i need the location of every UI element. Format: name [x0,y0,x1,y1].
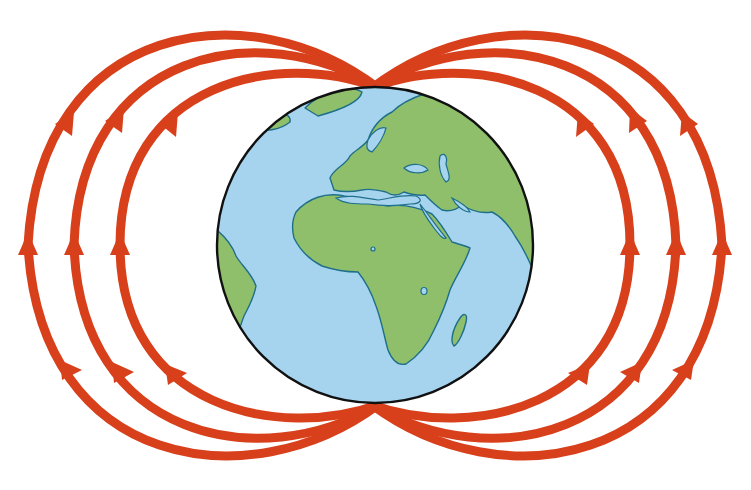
magnetic-field-diagram [0,0,751,490]
arrow-up-icon [110,232,130,255]
lake-chad [371,247,375,251]
earth-globe [217,87,533,403]
arrow-up-icon [620,232,640,255]
lake-victoria [421,288,427,295]
arrow-up-icon [64,232,84,255]
arrow-up-icon [666,232,686,255]
arrow-up-icon [18,232,38,255]
arrow-up-icon [712,232,732,255]
